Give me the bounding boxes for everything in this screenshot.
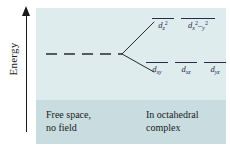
- caption-octahedral-line1: In octahedral: [146, 108, 198, 121]
- orbital-label-dxz: dxz: [181, 65, 190, 74]
- orbital-label-dxy: dxy: [152, 65, 162, 74]
- level-bar: [175, 62, 197, 63]
- level-bar: [152, 18, 174, 19]
- level-bar: [204, 62, 226, 63]
- orbital-dxy: dxy: [146, 62, 168, 74]
- level-bar: [181, 18, 215, 19]
- caption-free-space: Free space, no field: [46, 108, 91, 134]
- orbital-dyz: dyz: [204, 62, 226, 74]
- diagram-panel: dz2 dx2–y2 dxy dxz dyz: [36, 8, 226, 144]
- splitting-diagram: dz2 dx2–y2 dxy dxz dyz: [36, 8, 226, 100]
- eg-orbital-set: dz2 dx2–y2: [152, 18, 215, 30]
- orbital-label-dx2y2: dx2–y2: [188, 21, 208, 30]
- caption-octahedral: In octahedral complex: [146, 108, 198, 134]
- caption-free-space-line1: Free space,: [46, 108, 91, 121]
- caption-octahedral-line2: complex: [146, 121, 198, 134]
- orbital-label-dz2: dz2: [158, 21, 168, 30]
- caption-free-space-line2: no field: [46, 121, 91, 134]
- eg-branch-line: [122, 22, 154, 54]
- orbital-dxz: dxz: [175, 62, 197, 74]
- crystal-field-splitting-figure: Energy dz2 dx2–y2: [0, 0, 230, 146]
- orbital-label-dyz: dyz: [210, 65, 219, 74]
- level-bar: [146, 62, 168, 63]
- orbital-dz2: dz2: [152, 18, 174, 30]
- t2g-orbital-set: dxy dxz dyz: [146, 62, 226, 74]
- energy-axis-label: Energy: [7, 24, 19, 94]
- energy-axis-line: [26, 14, 27, 132]
- energy-axis: Energy: [0, 0, 36, 146]
- orbital-dx2y2: dx2–y2: [181, 18, 215, 30]
